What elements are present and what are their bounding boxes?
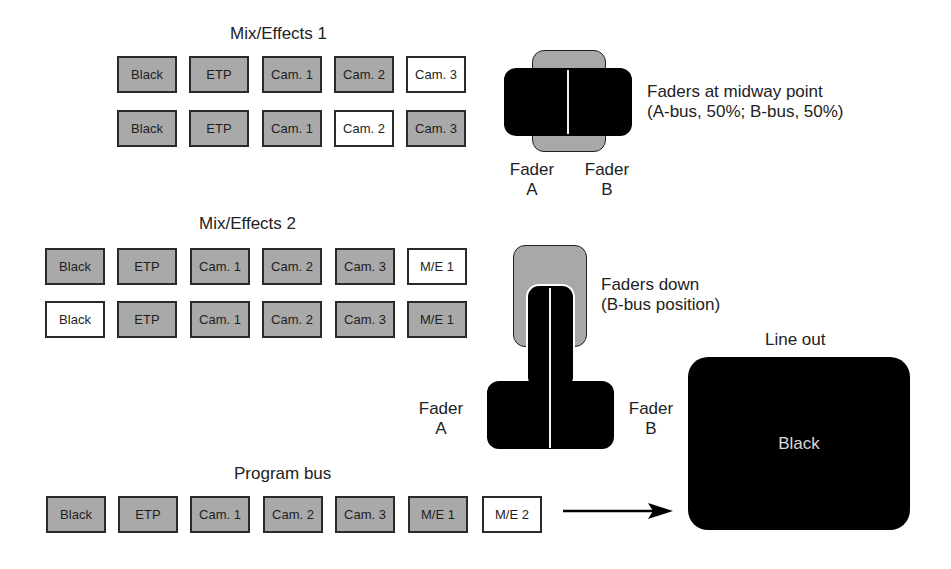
me2-fader-split [549, 288, 551, 448]
me2-b-button-cam1[interactable]: Cam. 1 [190, 301, 250, 338]
line-out-title: Line out [765, 330, 826, 350]
me1-b-button-cam3[interactable]: Cam. 3 [406, 110, 466, 147]
me2-b-button-cam2[interactable]: Cam. 2 [262, 301, 322, 338]
program-button-black[interactable]: Black [46, 496, 106, 533]
me2-b-button-cam3[interactable]: Cam. 3 [335, 301, 395, 338]
me2-a-button-cam2[interactable]: Cam. 2 [262, 248, 322, 285]
me1-b-button-cam2[interactable]: Cam. 2 [334, 110, 394, 147]
program-button-me1[interactable]: M/E 1 [408, 496, 468, 533]
me2-a-button-black[interactable]: Black [45, 248, 105, 285]
me1-fader-caption: Faders at midway point (A-bus, 50%; B-bu… [647, 82, 844, 122]
me2-title: Mix/Effects 2 [199, 214, 296, 234]
me1-a-button-etp[interactable]: ETP [189, 56, 249, 93]
me1-a-button-cam3[interactable]: Cam. 3 [406, 56, 466, 93]
line-out-content: Black [778, 434, 820, 454]
program-button-cam1[interactable]: Cam. 1 [190, 496, 250, 533]
me1-title: Mix/Effects 1 [230, 24, 327, 44]
me2-a-button-cam3[interactable]: Cam. 3 [335, 248, 395, 285]
me1-b-button-etp[interactable]: ETP [189, 110, 249, 147]
program-button-me2[interactable]: M/E 2 [482, 496, 542, 533]
me1-fader-split [567, 70, 569, 134]
me1-a-button-cam2[interactable]: Cam. 2 [334, 56, 394, 93]
me2-a-button-cam1[interactable]: Cam. 1 [190, 248, 250, 285]
program-button-cam2[interactable]: Cam. 2 [263, 496, 323, 533]
program-button-etp[interactable]: ETP [118, 496, 178, 533]
me2-fader-a-label: FaderA [411, 399, 471, 439]
me1-fader-b-label: FaderB [577, 160, 637, 200]
line-out-monitor: Black [688, 357, 910, 530]
me1-fader-a-label: FaderA [502, 160, 562, 200]
me1-b-button-black[interactable]: Black [117, 110, 177, 147]
me2-fader-caption: Faders down (B-bus position) [601, 275, 720, 315]
me2-a-button-etp[interactable]: ETP [117, 248, 177, 285]
arrow-right-icon [560, 500, 680, 522]
me1-a-button-cam1[interactable]: Cam. 1 [262, 56, 322, 93]
me2-b-button-etp[interactable]: ETP [117, 301, 177, 338]
me2-b-button-me1[interactable]: M/E 1 [407, 301, 467, 338]
me2-b-button-black[interactable]: Black [45, 301, 105, 338]
me2-fader-b-label: FaderB [621, 399, 681, 439]
program-bus-title: Program bus [234, 464, 331, 484]
me1-a-button-black[interactable]: Black [117, 56, 177, 93]
me1-b-button-cam1[interactable]: Cam. 1 [262, 110, 322, 147]
program-button-cam3[interactable]: Cam. 3 [335, 496, 395, 533]
me2-a-button-me1[interactable]: M/E 1 [407, 248, 467, 285]
